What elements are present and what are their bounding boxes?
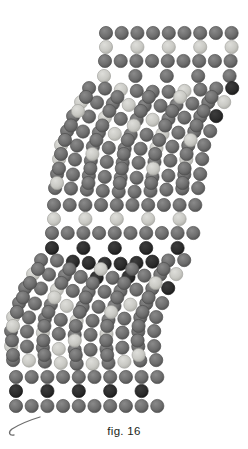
bead-medium bbox=[166, 104, 179, 117]
bead-medium bbox=[187, 226, 200, 239]
bead-medium bbox=[148, 340, 161, 353]
bead-medium bbox=[52, 327, 65, 340]
bead-dark bbox=[226, 82, 239, 95]
bead-dark bbox=[104, 384, 117, 397]
bead-layer bbox=[5, 26, 239, 412]
bead-medium bbox=[100, 334, 113, 347]
bead-medium bbox=[130, 171, 143, 184]
bead-medium bbox=[72, 370, 85, 383]
bead-medium bbox=[96, 184, 109, 197]
bead-light bbox=[99, 40, 112, 53]
bead-medium bbox=[177, 54, 190, 67]
bead-medium bbox=[25, 399, 38, 412]
bead-light bbox=[68, 334, 81, 347]
bead-dark bbox=[9, 384, 22, 397]
bead-medium bbox=[104, 370, 117, 383]
bead-light bbox=[60, 299, 73, 312]
bead-medium bbox=[84, 343, 97, 356]
bead-medium bbox=[114, 54, 127, 67]
bead-light bbox=[54, 356, 67, 369]
bead-light bbox=[6, 319, 19, 332]
bead-medium bbox=[47, 198, 60, 211]
bead-medium bbox=[99, 26, 112, 39]
bead-medium bbox=[10, 305, 23, 318]
bead-light bbox=[162, 40, 175, 53]
bead-medium bbox=[116, 326, 129, 339]
bead-medium bbox=[166, 140, 179, 153]
bead-dark bbox=[210, 110, 223, 123]
bead-medium bbox=[98, 285, 111, 298]
bead-medium bbox=[118, 312, 131, 325]
bead-medium bbox=[132, 156, 145, 169]
bead-light bbox=[127, 119, 140, 132]
bead-light bbox=[50, 176, 63, 189]
bead-medium bbox=[5, 334, 18, 347]
bead-light bbox=[131, 40, 144, 53]
bead-medium bbox=[103, 104, 116, 117]
bead-medium bbox=[161, 54, 174, 67]
bead-light bbox=[122, 98, 135, 111]
bead-light bbox=[174, 90, 187, 103]
bead-medium bbox=[172, 126, 185, 139]
figure-caption: fig. 16 bbox=[0, 424, 248, 438]
bead-medium bbox=[155, 226, 168, 239]
bead-medium bbox=[84, 328, 97, 341]
bead-dark bbox=[72, 384, 85, 397]
bead-medium bbox=[98, 170, 111, 183]
bead-medium bbox=[110, 198, 123, 211]
bead-medium bbox=[41, 370, 54, 383]
bead-medium bbox=[126, 198, 139, 211]
bead-medium bbox=[115, 26, 128, 39]
bead-light bbox=[47, 212, 60, 225]
bead-medium bbox=[149, 147, 162, 160]
bead-medium bbox=[150, 354, 163, 367]
bead-medium bbox=[20, 325, 33, 338]
bead-medium bbox=[194, 168, 207, 181]
bead-light bbox=[22, 354, 35, 367]
bead-medium bbox=[134, 104, 147, 117]
bead-medium bbox=[100, 155, 113, 168]
bead-medium bbox=[68, 153, 81, 166]
bead-medium bbox=[147, 26, 160, 39]
bead-medium bbox=[57, 399, 70, 412]
bead-medium bbox=[57, 370, 70, 383]
bead-medium bbox=[74, 270, 87, 283]
bead-medium bbox=[45, 226, 58, 239]
bead-medium bbox=[93, 226, 106, 239]
bead-medium bbox=[54, 313, 67, 326]
bead-medium bbox=[197, 104, 210, 117]
bead-light bbox=[184, 133, 197, 146]
bead-medium bbox=[130, 283, 143, 296]
bead-medium bbox=[131, 334, 144, 347]
bead-medium bbox=[119, 370, 132, 383]
bead-medium bbox=[194, 83, 207, 96]
bead-medium bbox=[136, 305, 149, 318]
bead-medium bbox=[25, 370, 38, 383]
bead-medium bbox=[111, 90, 124, 103]
bead-medium bbox=[106, 271, 119, 284]
bead-medium bbox=[66, 168, 79, 181]
bead-medium bbox=[69, 348, 82, 361]
bead-light bbox=[105, 305, 118, 318]
bead-medium bbox=[98, 54, 111, 67]
bead-medium bbox=[130, 54, 143, 67]
bead-medium bbox=[98, 82, 111, 95]
bead-medium bbox=[124, 226, 137, 239]
bead-medium bbox=[150, 311, 163, 324]
bead-medium bbox=[113, 176, 126, 189]
bead-medium bbox=[209, 26, 222, 39]
bead-light bbox=[108, 127, 121, 140]
bead-light bbox=[86, 357, 99, 370]
bead-light bbox=[94, 262, 107, 275]
bead-medium bbox=[104, 399, 117, 412]
bead-medium bbox=[64, 182, 77, 195]
bead-medium bbox=[186, 97, 199, 110]
bead-medium bbox=[154, 99, 167, 112]
bead-medium bbox=[61, 226, 74, 239]
bead-medium bbox=[223, 69, 236, 82]
bead-medium bbox=[164, 154, 177, 167]
bead-medium bbox=[88, 399, 101, 412]
bead-light bbox=[218, 96, 231, 109]
bead-medium bbox=[162, 169, 175, 182]
bead-light bbox=[170, 268, 183, 281]
